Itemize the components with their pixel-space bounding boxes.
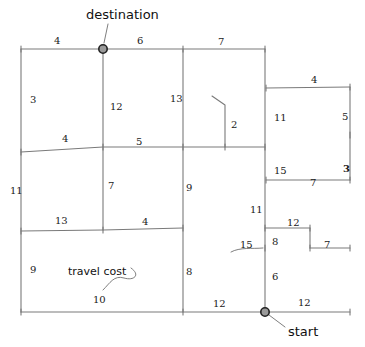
graph-edge-row3 [21, 228, 183, 231]
edge-weight-label: 4 [62, 134, 68, 144]
node-label-start: start [288, 325, 318, 338]
edge-weight-label: 7 [218, 37, 224, 47]
edge-weight-label: 8 [186, 267, 192, 277]
graph-svg [0, 0, 365, 347]
destination-leader-line [104, 24, 108, 43]
edge-weight-label: 3 [30, 95, 36, 105]
annotation-travel-cost: travel cost [68, 266, 126, 277]
edge-weight-label: 6 [272, 272, 278, 282]
leader-lines-group [103, 24, 285, 327]
node-label-destination: destination [86, 8, 159, 21]
start-leader-line [269, 315, 285, 327]
edge-weight-label: 15 [274, 166, 287, 176]
edge-weight-label: 13 [55, 216, 68, 226]
edge-weight-label: 12 [298, 298, 311, 308]
edge-weight-label: 12 [213, 299, 226, 309]
edge-weight-label: 5 [342, 112, 348, 122]
edge-weight-label: 7 [310, 178, 316, 188]
graph-edge-row2 [21, 147, 265, 152]
edge-weight-label: 3 [343, 164, 350, 174]
node-marker-start[interactable] [261, 308, 269, 316]
node-marker-destination[interactable] [99, 45, 107, 53]
edge-weight-label: 13 [170, 94, 183, 104]
edge-weight-label: 15 [240, 240, 253, 250]
edge-weight-label: 11 [250, 205, 263, 215]
diagram-canvas: 4673121345241151573117913411128157986101… [0, 0, 365, 347]
edge-weight-label: 4 [54, 36, 60, 46]
edge-weight-label: 12 [110, 102, 123, 112]
graph-edge-stub-2 [212, 96, 225, 147]
edge-weight-label: 4 [311, 75, 317, 85]
edge-weight-label: 7 [108, 181, 114, 191]
edge-weight-label: 2 [231, 120, 237, 130]
edge-weight-label: 9 [30, 265, 36, 275]
edge-weight-label: 11 [10, 186, 23, 196]
edge-weight-label: 10 [93, 295, 106, 305]
edge-weight-label: 11 [274, 113, 287, 123]
edge-weight-label: 5 [136, 137, 142, 147]
edge-weight-label: 8 [272, 237, 278, 247]
edge-weight-label: 4 [142, 217, 148, 227]
edge-weight-label: 6 [137, 36, 143, 46]
edge-weight-label: 12 [287, 218, 300, 228]
edge-weight-label: 7 [324, 240, 330, 250]
edge-weight-label: 9 [186, 183, 192, 193]
graph-edge-box-top [266, 87, 350, 88]
